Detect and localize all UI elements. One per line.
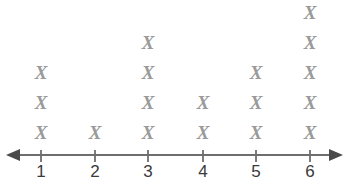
tick-label-6: 6 — [295, 162, 325, 182]
x-mark: X — [304, 0, 317, 28]
x-mark: X — [250, 88, 263, 118]
axis-left-arrow-icon — [6, 149, 20, 161]
tick-label-1: 1 — [26, 162, 56, 182]
x-mark: X — [250, 58, 263, 88]
mark-stack-6: XXXXX — [295, 0, 325, 148]
tick-label-2: 2 — [80, 162, 110, 182]
mark-stack-5: XXX — [241, 58, 271, 148]
x-mark: X — [304, 28, 317, 58]
mark-stack-1: XXX — [26, 58, 56, 148]
tick-label-4: 4 — [188, 162, 218, 182]
x-mark: X — [142, 88, 155, 118]
x-mark: X — [304, 118, 317, 148]
x-mark: X — [35, 118, 48, 148]
x-mark: X — [142, 58, 155, 88]
x-mark: X — [304, 58, 317, 88]
axis-right-arrow-icon — [329, 149, 343, 161]
x-mark: X — [89, 118, 102, 148]
x-mark: X — [142, 28, 155, 58]
mark-stack-3: XXXX — [133, 28, 163, 148]
tick-label-5: 5 — [241, 162, 271, 182]
tick-label-3: 3 — [133, 162, 163, 182]
x-mark: X — [35, 88, 48, 118]
x-mark: X — [142, 118, 155, 148]
x-mark: X — [304, 88, 317, 118]
mark-stack-4: XX — [188, 88, 218, 148]
x-mark: X — [250, 118, 263, 148]
axis-ticks — [41, 150, 310, 162]
dot-plot-chart: XXX X XXXX XX XXX XXXXX 1 2 3 4 5 6 — [0, 0, 349, 193]
mark-stack-2: X — [80, 118, 110, 148]
x-mark: X — [197, 118, 210, 148]
x-mark: X — [197, 88, 210, 118]
x-mark: X — [35, 58, 48, 88]
